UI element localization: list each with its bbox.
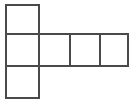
- cell-middle-col0: [6, 34, 39, 66]
- cell-middle-col2: [70, 34, 100, 66]
- cell-middle-col1: [39, 34, 70, 66]
- square-net-diagram: [0, 0, 136, 103]
- cell-middle-col3: [100, 34, 128, 66]
- net-figure-container: [0, 0, 136, 103]
- cell-bottom-left: [6, 66, 39, 98]
- cell-top-left: [6, 5, 39, 34]
